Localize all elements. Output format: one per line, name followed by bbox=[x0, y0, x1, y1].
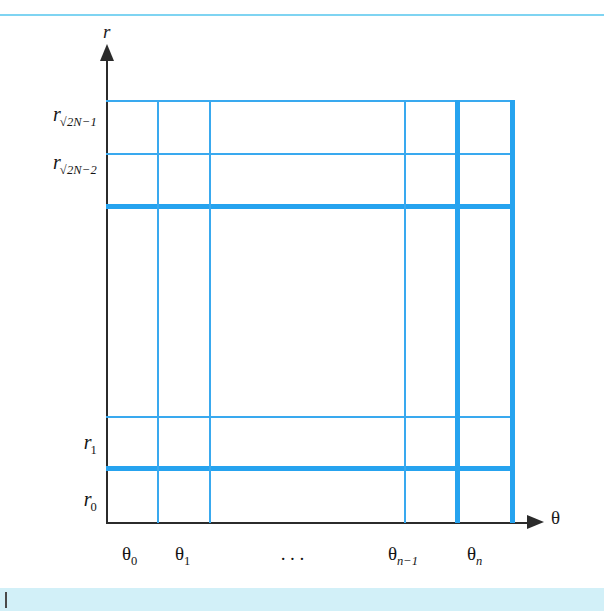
r-axis-line bbox=[106, 56, 108, 524]
theta-tick-base: θ bbox=[467, 543, 476, 564]
radical-icon: √ bbox=[60, 115, 67, 129]
theta-axis-label: θ bbox=[551, 508, 560, 527]
theta-tick-subscript: n−1 bbox=[397, 554, 418, 568]
r-tick-label-0: r0 bbox=[16, 489, 98, 510]
grid-line-vertical bbox=[157, 100, 159, 523]
theta-tick-label-0: θ0 bbox=[122, 543, 137, 565]
grid-line-horizontal-bold bbox=[106, 204, 515, 209]
theta-tick-base: θ bbox=[122, 543, 131, 564]
r-tick-label-2N-1: r√2N−1 bbox=[16, 104, 98, 125]
theta-tick-label-1: θ1 bbox=[175, 543, 190, 565]
theta-tick-label-n: θn bbox=[467, 543, 482, 565]
theta-tick-ellipsis: ··· bbox=[280, 548, 308, 570]
theta-tick-subscript: 1 bbox=[184, 554, 190, 568]
radical-icon: √ bbox=[60, 163, 67, 177]
theta-tick-base: θ bbox=[388, 543, 397, 564]
r-tick-sub-text: 0 bbox=[91, 500, 97, 514]
r-tick-subscript: √2N−2 bbox=[60, 163, 97, 177]
right-arrow-icon bbox=[527, 515, 544, 529]
theta-tick-base: θ bbox=[175, 543, 184, 564]
grid-line-vertical-bold bbox=[455, 100, 460, 523]
r-tick-label-2N-2: r√2N−2 bbox=[16, 152, 98, 173]
r-tick-subscript: √2N−1 bbox=[60, 115, 97, 129]
theta-tick-subscript: 0 bbox=[131, 554, 137, 568]
polar-grid-figure: r θ r√2N−1 r√2N−2 r1 r0 θ0 bbox=[0, 0, 604, 588]
grid-line-horizontal bbox=[106, 153, 515, 155]
r-tick-sub-text: 1 bbox=[91, 443, 97, 457]
r-tick-subscript: 0 bbox=[91, 500, 97, 514]
grid-line-horizontal-bold bbox=[106, 466, 515, 471]
figure-page: r θ r√2N−1 r√2N−2 r1 r0 θ0 bbox=[0, 0, 604, 611]
theta-axis-line bbox=[106, 522, 531, 524]
bottom-color-band bbox=[0, 588, 604, 611]
bottom-band-tick-mark bbox=[5, 592, 7, 608]
theta-tick-subscript: n bbox=[476, 554, 482, 568]
r-tick-sub-text: 2N−1 bbox=[67, 115, 97, 129]
grid-line-vertical bbox=[404, 100, 406, 523]
r-tick-sub-text: 2N−2 bbox=[67, 163, 97, 177]
r-tick-subscript: 1 bbox=[91, 443, 97, 457]
grid-line-horizontal bbox=[106, 100, 515, 102]
r-axis-label: r bbox=[103, 22, 110, 41]
grid-line-vertical-bold bbox=[510, 100, 515, 523]
up-arrow-icon bbox=[100, 44, 114, 61]
theta-tick-label-n-1: θn−1 bbox=[388, 543, 418, 565]
grid-line-horizontal bbox=[106, 416, 515, 418]
grid-line-vertical bbox=[209, 100, 211, 523]
r-tick-label-1: r1 bbox=[16, 432, 98, 453]
